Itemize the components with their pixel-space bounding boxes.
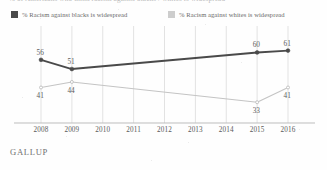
x-tick-2015: 2015 (250, 126, 265, 134)
data-point-marker (40, 86, 43, 89)
x-tick-2010: 2010 (95, 126, 110, 134)
legend-item-blacks: % Racism against blacks is widespread (11, 7, 127, 21)
chart-svg (0, 21, 327, 126)
data-label: 41 (284, 91, 292, 100)
x-tick-2008: 2008 (34, 126, 49, 134)
legend-label-whites: % Racism against whites is widespread (179, 10, 285, 19)
legend-swatch-blacks-icon (11, 11, 18, 18)
data-point-marker (286, 49, 290, 53)
chart-plot-area: 5651606141443341 (0, 21, 327, 126)
data-label: 56 (37, 48, 45, 57)
chart-source-label: GALLUP (10, 147, 48, 157)
x-tick-2016: 2016 (281, 126, 296, 134)
x-tick-2011: 2011 (126, 126, 141, 134)
x-tick-2013: 2013 (188, 126, 203, 134)
data-label: 41 (37, 91, 45, 100)
data-point-marker (255, 51, 259, 55)
x-tick-2012: 2012 (157, 126, 172, 134)
chart-x-axis-labels: 200820092010201120122013201420152016 (0, 126, 327, 140)
data-point-marker (256, 101, 259, 104)
chart-legend: % Racism against blacks is widespread % … (0, 7, 327, 21)
data-label: 44 (67, 86, 75, 95)
data-point-marker (39, 58, 43, 62)
legend-swatch-whites-icon (168, 11, 175, 18)
legend-label-blacks: % Racism against blacks is widespread (22, 10, 127, 19)
data-label: 33 (253, 106, 261, 115)
data-point-marker (70, 80, 73, 83)
data-label: 51 (67, 57, 75, 66)
chart-title-text: % of Americans who think racism against … (9, 0, 225, 3)
data-label: 60 (253, 40, 261, 49)
chart-title-clipped: % of Americans who think racism against … (0, 0, 327, 7)
x-tick-2009: 2009 (64, 126, 79, 134)
gallup-line-chart-figure: % of Americans who think racism against … (0, 0, 327, 170)
legend-item-whites: % Racism against whites is widespread (168, 7, 285, 21)
data-label: 61 (284, 39, 292, 48)
x-tick-2014: 2014 (219, 126, 234, 134)
data-point-marker (70, 67, 74, 71)
data-point-marker (287, 86, 290, 89)
chart-gridlines (41, 26, 288, 123)
